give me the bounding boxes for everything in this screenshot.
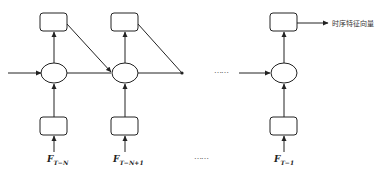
junction-dot (180, 71, 183, 74)
input-box-2 (111, 117, 138, 135)
input-box-3 (270, 117, 297, 135)
ellipsis-middle: …… (214, 66, 228, 75)
hidden-output-box-2 (111, 13, 138, 31)
output-label: 时序特征向量 (332, 18, 374, 28)
input-label-3: FT−1 (274, 154, 294, 166)
rnn-cell-2 (112, 63, 138, 83)
rnn-cell-3 (271, 63, 297, 83)
rnn-cell-1 (41, 63, 67, 83)
rnn-diagram (0, 0, 383, 176)
hidden-output-box-3 (270, 13, 297, 31)
input-label-2: FT−N+1 (113, 154, 144, 166)
hidden-output-box-1 (40, 13, 67, 31)
ellipsis-bottom: …… (194, 152, 208, 161)
input-box-1 (40, 117, 67, 135)
input-label-1: FT−N (47, 154, 68, 166)
